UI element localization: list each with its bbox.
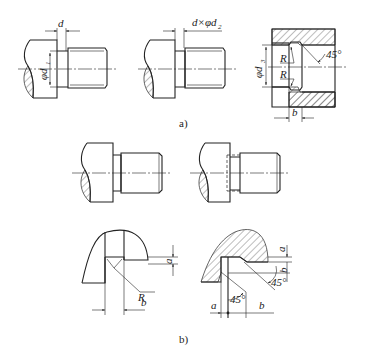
label-sub-1: 1: [44, 62, 52, 66]
view-b1-relief-groove: [72, 143, 172, 202]
view-a1-undercut-d: d φd 1: [18, 17, 116, 98]
label-sub-2: 2: [218, 23, 222, 31]
label-b-a: b: [292, 106, 298, 118]
label-a-top: a: [275, 246, 287, 252]
view-a2-undercut-d-x-phi-d2: d×φd 2: [138, 16, 236, 98]
technical-drawing-canvas: d φd 1 d×φd 2 a): [0, 0, 365, 360]
label-a-bottom: a: [211, 299, 217, 311]
label-b-b3: b: [141, 296, 147, 308]
label-b-bottom: b: [259, 299, 265, 311]
caption-a: a): [179, 117, 188, 130]
label-sub-3: 3: [259, 59, 267, 64]
label-45-right: 45°: [271, 276, 287, 288]
label-45-bottom: 45°: [230, 293, 246, 305]
label-d-x-phi-d: d×φd: [192, 16, 217, 28]
label-phi-d: φd: [37, 68, 49, 80]
label-b-vert: b: [277, 267, 289, 273]
label-45-a: 45°: [326, 48, 342, 60]
view-b2-hidden-groove: [190, 143, 290, 202]
label-r-bottom: R: [279, 68, 287, 80]
view-a3-internal-undercut: φd 3 R R 45° b: [252, 29, 348, 122]
label-phi-d3: φd: [252, 66, 264, 78]
label-r-top: R: [279, 52, 287, 64]
view-b3-radius-groove-detail: R a b: [82, 230, 178, 315]
label-d: d: [58, 17, 64, 29]
label-a-b3: a: [162, 258, 174, 264]
caption-b: b): [179, 333, 189, 346]
view-b4-chamfer-groove-detail: a b 45° 45° a b: [201, 230, 292, 318]
